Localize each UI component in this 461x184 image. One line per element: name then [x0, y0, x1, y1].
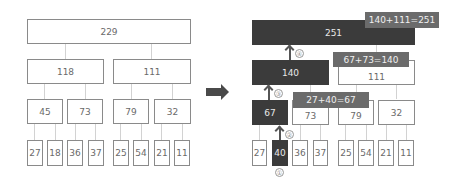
tree-node: 111: [113, 59, 191, 84]
sum-callout: 27+40=67: [293, 92, 369, 108]
connector: [161, 124, 162, 140]
tree-node: 118: [27, 59, 104, 84]
connector: [366, 124, 367, 140]
connector: [151, 43, 152, 59]
connector: [320, 124, 321, 140]
leaf-node: 27: [252, 140, 267, 166]
connector: [75, 124, 76, 140]
leaf-node: 21: [378, 140, 394, 166]
up-arrow-icon: [289, 47, 291, 60]
leaf-node: 11: [398, 140, 414, 166]
connector: [141, 124, 142, 140]
tree-node: 32: [378, 100, 415, 125]
leaf-node: 25: [338, 140, 354, 166]
step-marker: ①: [275, 168, 284, 177]
connector: [44, 83, 45, 99]
connector: [396, 83, 397, 99]
leaf-node: 54: [133, 140, 149, 166]
connector: [406, 124, 407, 140]
connector: [259, 124, 260, 140]
leaf-node-highlighted: 40: [272, 140, 288, 166]
leaf-node: 25: [113, 140, 129, 166]
leaf-node: 37: [88, 140, 104, 166]
tree-node-highlighted: 67: [252, 100, 288, 125]
up-arrow-icon: [279, 128, 281, 140]
connector: [131, 83, 132, 99]
sum-callout: 140+111=251: [365, 12, 439, 28]
leaf-node: 18: [47, 140, 63, 166]
step-marker: ②: [285, 130, 294, 139]
leaf-node: 27: [27, 140, 43, 166]
leaf-node: 37: [313, 140, 328, 166]
leaf-node: 54: [358, 140, 374, 166]
step-marker: ④: [295, 49, 304, 58]
tree-node: 79: [113, 99, 149, 124]
tree-node: 73: [67, 99, 103, 124]
connector: [85, 83, 86, 99]
tree-node: 32: [154, 99, 191, 124]
connector: [386, 124, 387, 140]
connector: [34, 124, 35, 140]
connector: [95, 124, 96, 140]
connector: [345, 124, 346, 140]
step-marker: ③: [274, 89, 283, 98]
tree-node-root: 229: [27, 19, 191, 44]
tree-node-highlighted: 140: [252, 60, 329, 85]
leaf-node: 11: [174, 140, 190, 166]
connector: [120, 124, 121, 140]
connector: [300, 124, 301, 140]
leaf-node: 21: [154, 140, 170, 166]
connector: [182, 124, 183, 140]
connector: [172, 83, 173, 99]
connector: [55, 124, 56, 140]
leaf-node: 36: [67, 140, 83, 166]
connector: [65, 43, 66, 59]
sum-callout: 67+73=140: [333, 52, 409, 67]
tree-node: 45: [27, 99, 63, 124]
up-arrow-icon: [268, 87, 270, 100]
leaf-node: 36: [292, 140, 308, 166]
right-arrow-icon: [206, 88, 222, 96]
